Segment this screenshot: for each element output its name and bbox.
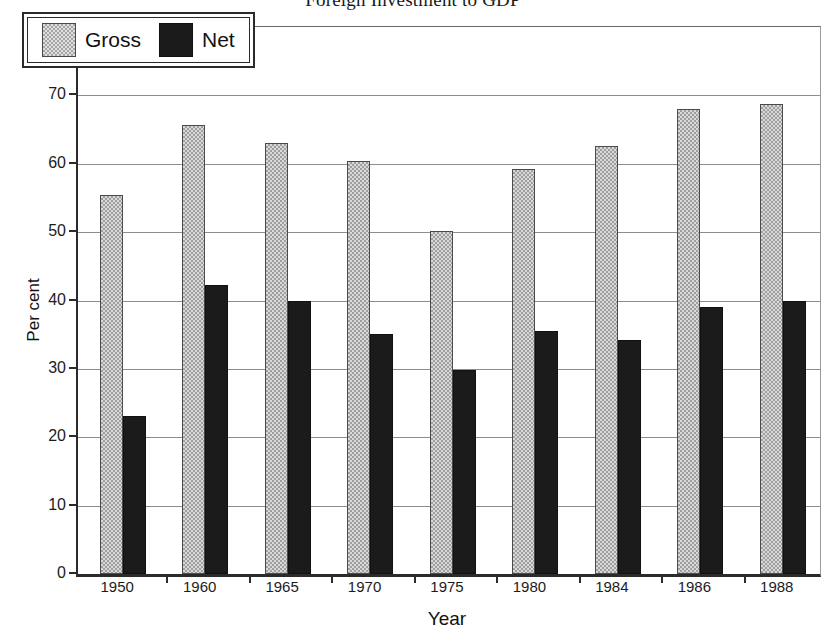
bar-gross-1970: [347, 161, 370, 574]
x-axis-tick-label: 1965: [237, 578, 327, 595]
y-axis-tick-label: 10: [24, 497, 66, 513]
x-axis-tick-label: 1950: [72, 578, 162, 595]
x-axis-tick-label: 1986: [649, 578, 739, 595]
x-axis-tick-label: 1960: [155, 578, 245, 595]
bar-net-1988: [783, 301, 806, 574]
y-axis-tick-label: 60: [24, 155, 66, 171]
gridline: [78, 95, 820, 96]
legend-label: Net: [202, 28, 235, 52]
legend-swatch-net-icon: [159, 23, 193, 57]
plot-area: [76, 26, 821, 577]
bar-gross-1986: [677, 109, 700, 574]
legend-entry-gross: Gross: [42, 23, 141, 57]
y-axis-tick-label: 20: [24, 428, 66, 444]
y-axis-tick-label: 70: [24, 86, 66, 102]
legend-inner: GrossNet: [27, 17, 250, 63]
bar-net-1965: [288, 301, 311, 574]
bar-net-1984: [618, 340, 641, 574]
bar-gross-1980: [512, 169, 535, 574]
legend-entry-net: Net: [159, 23, 235, 57]
x-axis-tick-label: 1980: [484, 578, 574, 595]
bar-gross-1960: [182, 125, 205, 574]
bar-net-1950: [123, 416, 146, 574]
bar-net-1970: [370, 334, 393, 574]
y-axis-tick-label: 50: [24, 223, 66, 239]
legend-label: Gross: [85, 28, 141, 52]
y-axis-tick-label: 0: [24, 565, 66, 581]
chart-legend: GrossNet: [22, 12, 255, 68]
x-axis-tick-label: 1984: [567, 578, 657, 595]
chart-figure: Foreign Investment to GDP Per cent 01020…: [0, 0, 826, 640]
bar-gross-1984: [595, 146, 618, 574]
legend-swatch-gross-icon: [42, 23, 76, 57]
x-axis-tick-label: 1988: [732, 578, 822, 595]
bar-gross-1950: [100, 195, 123, 574]
bar-gross-1965: [265, 143, 288, 574]
y-axis-title: Per cent: [24, 250, 44, 370]
x-axis-tick-label: 1970: [320, 578, 410, 595]
chart-title: Foreign Investment to GDP: [0, 0, 826, 11]
bar-net-1980: [535, 331, 558, 574]
bar-net-1975: [453, 370, 476, 574]
bar-net-1986: [700, 307, 723, 574]
x-axis-title: Year: [76, 608, 818, 630]
bar-gross-1975: [430, 231, 453, 574]
bar-gross-1988: [760, 104, 783, 574]
x-axis-tick-label: 1975: [402, 578, 492, 595]
bar-net-1960: [205, 285, 228, 574]
